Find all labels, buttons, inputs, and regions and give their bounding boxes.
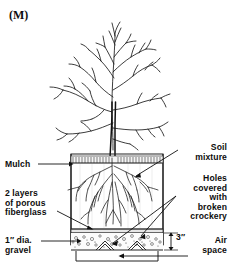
planting-container-diagram — [0, 0, 231, 272]
label-air-space: Air space — [197, 236, 227, 255]
mulch-hatched-band — [71, 156, 163, 163]
label-soil-mixture: Soil mixture — [179, 143, 227, 162]
root-system — [68, 158, 158, 226]
porous-fiberglass-sheet — [71, 229, 163, 233]
label-gravel: 1″ dia. gravel — [5, 236, 32, 255]
label-holes-covered-with-broken-crockery: Holes covered with broken crockery — [177, 174, 227, 222]
label-porous-fiberglass: 2 layers of porous fiberglass — [5, 189, 47, 218]
label-depth-dimension: 3″ — [176, 233, 185, 243]
label-mulch: Mulch — [5, 160, 30, 170]
tree-crown — [50, 22, 170, 150]
soil-mixture-fill — [80, 164, 152, 228]
panel-tag: (M) — [9, 8, 28, 23]
